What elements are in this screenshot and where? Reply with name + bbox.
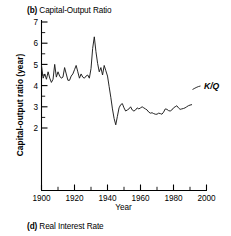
x-axis-minor-ticks <box>58 187 190 191</box>
x-tick-label: 1940 <box>98 194 117 203</box>
x-tick-label: 2000 <box>197 194 216 203</box>
chart-plot-area: 7 6 5 4 3 2 1900 1920 1940 <box>0 0 231 236</box>
x-tick-label: 1980 <box>164 194 183 203</box>
x-tick-label: 1960 <box>131 194 150 203</box>
x-tick-label: 1920 <box>65 194 84 203</box>
x-axis-tick-labels: 1900 1920 1940 1960 1980 2000 <box>32 194 216 203</box>
series-annotation-label: K/Q <box>204 81 220 91</box>
y-tick-label: 4 <box>33 82 38 91</box>
y-tick-label: 5 <box>33 61 38 70</box>
next-panel-caption: (d) Real Interest Rate <box>27 222 104 231</box>
y-tick-label: 2 <box>33 124 38 133</box>
x-tick-label: 1900 <box>32 194 51 203</box>
annotation-leader-line <box>193 86 201 90</box>
data-series-line <box>42 37 192 125</box>
y-axis-tick-labels: 7 6 5 4 3 2 <box>33 18 38 133</box>
next-panel-title-text: Real Interest Rate <box>39 222 103 231</box>
y-tick-label: 6 <box>33 39 38 48</box>
next-panel-tag: (d) <box>27 222 37 231</box>
y-tick-label: 7 <box>33 18 38 27</box>
figure-panel-capital-output-ratio: (b) Capital-Output Ratio Capital-output … <box>0 0 231 236</box>
y-tick-label: 3 <box>33 103 38 112</box>
